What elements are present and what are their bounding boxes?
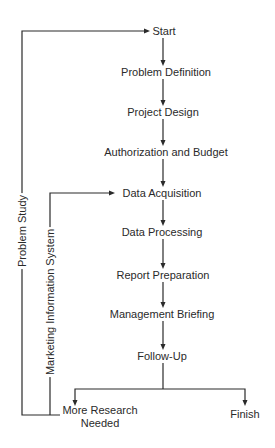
node-finish[interactable]: Finish	[230, 408, 259, 421]
node-project-design[interactable]: Project Design	[127, 106, 199, 119]
node-data-acquisition[interactable]: Data Acquisition	[123, 187, 202, 200]
arrowhead-to-finish	[243, 400, 248, 406]
node-management-briefing[interactable]: Management Briefing	[110, 308, 215, 321]
node-data-processing[interactable]: Data Processing	[122, 226, 203, 239]
node-more-research-needed[interactable]: More Research Needed	[62, 404, 137, 430]
node-authorization-budget[interactable]: Authorization and Budget	[104, 146, 228, 159]
mis-loop-line	[50, 193, 110, 415]
label-marketing-information-system: Marketing Information System	[44, 227, 56, 377]
problem-study-loop-line	[22, 31, 146, 415]
more-research-line1: More Research	[62, 404, 137, 417]
node-start[interactable]: Start	[152, 25, 175, 38]
branch-to-finish	[163, 389, 245, 402]
node-report-preparation[interactable]: Report Preparation	[117, 269, 210, 282]
branch-to-more-research	[75, 389, 163, 402]
node-problem-definition[interactable]: Problem Definition	[121, 66, 211, 79]
flowchart-diagram: Start Problem Definition Project Design …	[0, 0, 275, 448]
arrowhead-to-start	[144, 29, 150, 34]
node-follow-up[interactable]: Follow-Up	[137, 350, 187, 363]
label-problem-study: Problem Study	[16, 193, 28, 269]
arrowhead-to-data-acquisition	[109, 191, 115, 196]
more-research-line2: Needed	[62, 417, 137, 430]
